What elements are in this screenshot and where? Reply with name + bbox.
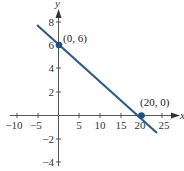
svg-text:4: 4 — [49, 62, 55, 74]
x-tick-labels: −10 −5 5 10 15 20 25 — [5, 119, 170, 131]
svg-text:10: 10 — [95, 119, 107, 131]
point-20-0 — [138, 112, 145, 119]
svg-text:5: 5 — [76, 119, 82, 131]
y-axis-label: y — [54, 0, 60, 9]
point-label-0-6: (0, 6) — [63, 32, 87, 45]
y-axis-arrow-icon — [56, 9, 62, 18]
point-0-6 — [56, 42, 63, 49]
svg-text:2: 2 — [49, 86, 55, 98]
svg-text:15: 15 — [116, 119, 128, 131]
svg-text:25: 25 — [159, 119, 171, 131]
svg-text:−10: −10 — [5, 119, 23, 131]
svg-text:8: 8 — [49, 16, 55, 28]
x-axis-arrow-icon — [171, 113, 180, 119]
point-label-20-0: (20, 0) — [140, 96, 170, 109]
line-graph: x y −10 −5 5 10 15 20 25 8 6 4 2 −2 −4 — [0, 0, 184, 171]
svg-text:−5: −5 — [30, 119, 42, 131]
svg-text:−4: −4 — [42, 156, 54, 168]
x-axis-label: x — [179, 109, 184, 121]
svg-text:−2: −2 — [42, 133, 54, 145]
